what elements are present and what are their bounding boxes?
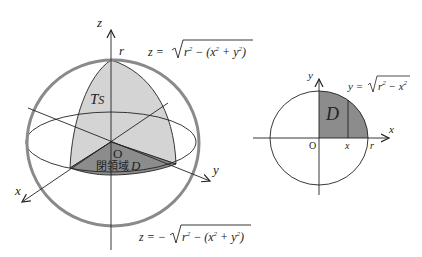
- disk-y-axis-label: y: [307, 69, 313, 81]
- disk-origin-label: O: [309, 140, 316, 151]
- svg-text:y =: y =: [347, 80, 363, 92]
- upper-hemisphere-equation: z = r2 − (x2 + y2): [147, 40, 253, 59]
- disk-x-tick-label: x: [344, 140, 350, 151]
- lower-eq-lhs: z = −: [138, 230, 166, 244]
- svg-text:r2 − (x2 + y2): r2 − (x2 + y2): [182, 230, 244, 244]
- upper-eq-rest: − (x: [192, 45, 216, 59]
- svg-text:r2 − (x2 + y2): r2 − (x2 + y2): [184, 45, 246, 59]
- x-axis-label: x: [14, 183, 21, 198]
- svg-text:r2 − x2: r2 − x2: [378, 79, 408, 92]
- surface-label-S: S: [98, 93, 104, 107]
- region-label: 閉領域D: [96, 158, 141, 173]
- svg-text:z =: z =: [147, 45, 164, 59]
- lower-eq-plus: + y: [217, 230, 237, 244]
- origin-label: O: [113, 146, 122, 161]
- surface-label: TS: [90, 91, 104, 107]
- upper-eq-lhs: z =: [147, 45, 164, 59]
- upper-eq-close: ): [241, 45, 246, 59]
- disk-region-label: D: [325, 104, 339, 124]
- disk-x-axis-label: x: [388, 123, 394, 135]
- disk-diagram: y x O x r D y = r2 − x2: [253, 69, 410, 195]
- region-label-var: D: [130, 158, 141, 173]
- upper-eq-plus: + y: [219, 45, 239, 59]
- disk-boundary-equation: y = r2 − x2: [347, 76, 410, 92]
- disk-eq-exp2: 2: [404, 79, 408, 87]
- sphere-diagram: z x y r TS O 閉領域D z = r2 − (x2 + y2) z =…: [14, 15, 253, 250]
- hemisphere-figure: z x y r TS O 閉領域D z = r2 − (x2 + y2) z =…: [0, 0, 422, 257]
- disk-r-tick-label: r: [370, 140, 374, 151]
- region-label-text: 閉領域: [96, 159, 129, 173]
- radius-label: r: [119, 43, 125, 58]
- lower-eq-close: ): [239, 230, 244, 244]
- svg-text:z = −: z = −: [138, 230, 166, 244]
- disk-eq-rest: − x: [386, 80, 404, 92]
- disk-eq-lhs: y =: [347, 80, 363, 92]
- z-axis-label: z: [96, 15, 102, 30]
- lower-hemisphere-equation: z = − r2 − (x2 + y2): [138, 225, 251, 244]
- y-axis-label: y: [211, 162, 219, 177]
- lower-eq-rest: − (x: [190, 230, 214, 244]
